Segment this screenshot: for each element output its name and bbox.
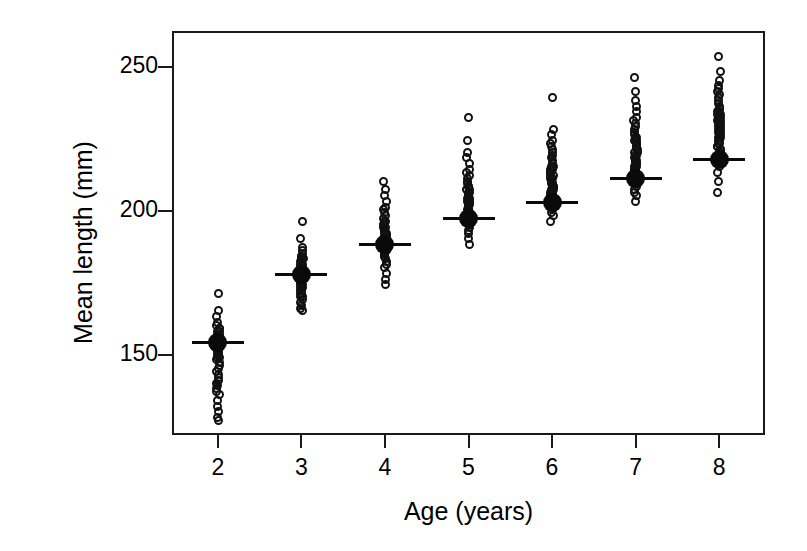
x-axis-tick-label: 4 — [365, 455, 405, 480]
x-axis-tick-mark — [217, 435, 219, 448]
y-axis-title: Mean length (mm) — [69, 93, 98, 393]
x-axis-tick-mark — [300, 435, 302, 448]
x-axis-tick-label: 7 — [616, 455, 656, 480]
x-axis-tick-label: 8 — [699, 455, 739, 480]
x-axis-tick-mark — [384, 435, 386, 448]
y-axis-tick-label: 200 — [98, 198, 158, 221]
figure-container: Mean length (mm) 150200250 2345678 Age (… — [0, 0, 807, 551]
x-axis-tick-label: 3 — [281, 455, 321, 480]
x-axis-tick-mark — [551, 435, 553, 448]
x-axis-title: Age (years) — [172, 497, 765, 526]
y-axis-tick-mark — [158, 66, 172, 68]
x-axis-tick-mark — [468, 435, 470, 448]
y-axis-tick-mark — [158, 210, 172, 212]
x-axis-tick-mark — [718, 435, 720, 448]
plot-frame — [172, 31, 765, 435]
x-axis-tick-label: 6 — [532, 455, 572, 480]
y-axis-tick-label: 250 — [98, 54, 158, 77]
y-axis-tick-mark — [158, 354, 172, 356]
x-axis-tick-label: 5 — [449, 455, 489, 480]
y-axis-tick-label: 150 — [98, 342, 158, 365]
x-axis-tick-label: 2 — [198, 455, 238, 480]
x-axis-tick-mark — [635, 435, 637, 448]
